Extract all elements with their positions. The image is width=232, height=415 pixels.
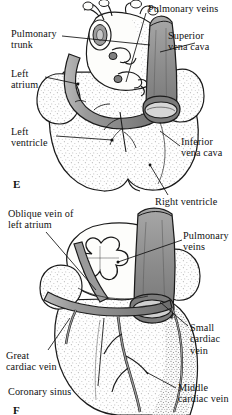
label-pulmonary-trunk: Pulmonary trunk bbox=[11, 28, 57, 51]
panel-letter-f: F bbox=[13, 404, 20, 415]
label-small-cardiac-vein: Small cardiac vein bbox=[190, 322, 220, 356]
label-inferior-vena-cava: Inferior vena cava bbox=[181, 136, 222, 159]
label-superior-vena-cava: Superior vena cava bbox=[168, 30, 209, 53]
label-pulmonary-veins-posterior: Pulmonary veins bbox=[183, 230, 229, 253]
label-right-ventricle: Right ventricle bbox=[155, 196, 217, 207]
panel-f-artwork bbox=[40, 208, 200, 415]
label-coronary-sinus: Coronary sinus bbox=[8, 386, 71, 397]
label-oblique-vein-of-left-atrium: Oblique vein of left atrium bbox=[8, 208, 73, 231]
label-left-ventricle: Left ventricle bbox=[11, 126, 48, 149]
label-middle-cardiac-vein: Middle cardiac vein bbox=[178, 382, 229, 405]
label-left-atrium: Left atrium bbox=[11, 68, 38, 91]
panel-letter-e: E bbox=[13, 178, 20, 190]
label-great-cardiac-vein: Great cardiac vein bbox=[6, 350, 57, 373]
label-pulmonary-veins: Pulmonary veins bbox=[148, 3, 218, 14]
